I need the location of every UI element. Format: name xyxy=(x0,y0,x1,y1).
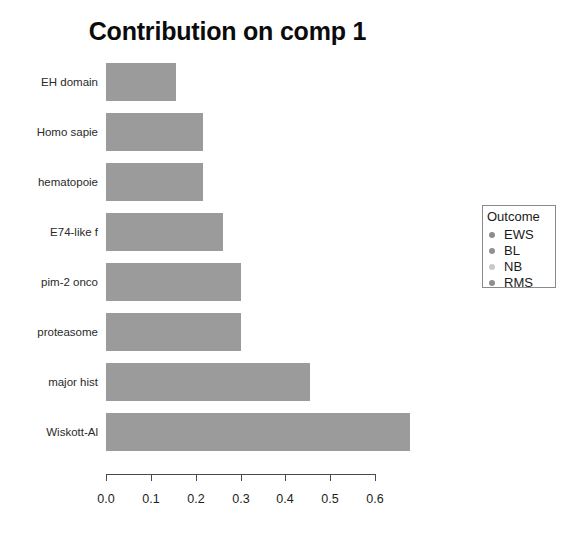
x-axis-tick xyxy=(241,474,242,481)
x-axis-tick xyxy=(151,474,152,481)
category-label: Wiskott-Al xyxy=(2,426,98,438)
legend-item-label: NB xyxy=(504,259,522,275)
category-label: proteasome xyxy=(2,326,98,338)
legend-dot-icon xyxy=(489,280,495,286)
category-label: EH domain xyxy=(2,76,98,88)
bar xyxy=(106,313,241,351)
x-axis-tick-label: 0.2 xyxy=(176,492,216,506)
x-axis-tick-label: 0.0 xyxy=(86,492,126,506)
legend-box: Outcome EWSBLNBRMS xyxy=(482,205,556,288)
x-axis-tick-label: 0.1 xyxy=(131,492,171,506)
legend-dot-icon xyxy=(489,232,495,238)
legend-item-ews[interactable]: EWS xyxy=(488,227,554,243)
bar xyxy=(106,263,241,301)
x-axis-tick-label: 0.3 xyxy=(221,492,261,506)
legend-item-nb[interactable]: NB xyxy=(488,259,554,275)
legend-title: Outcome xyxy=(487,209,540,224)
category-label: pim-2 onco xyxy=(2,276,98,288)
legend-item-rms[interactable]: RMS xyxy=(488,275,554,291)
bar xyxy=(106,213,223,251)
legend-item-label: BL xyxy=(504,243,520,259)
x-axis-tick xyxy=(285,474,286,481)
legend-item-label: RMS xyxy=(504,275,533,291)
bar xyxy=(106,363,310,401)
category-label: major hist xyxy=(2,376,98,388)
plot-area: EH domainHomo sapiehematopoieE74-like fp… xyxy=(0,0,470,539)
bar xyxy=(106,113,203,151)
legend-dot-icon xyxy=(489,264,495,270)
x-axis-tick xyxy=(106,474,107,481)
category-label: hematopoie xyxy=(2,176,98,188)
bar xyxy=(106,163,203,201)
x-axis-tick xyxy=(196,474,197,481)
x-axis-tick-label: 0.6 xyxy=(355,492,395,506)
category-label: Homo sapie xyxy=(2,126,98,138)
chart-page: Contribution on comp 1 EH domainHomo sap… xyxy=(0,0,572,539)
x-axis-tick-label: 0.4 xyxy=(265,492,305,506)
bar xyxy=(106,63,176,101)
x-axis-tick xyxy=(330,474,331,481)
x-axis-tick-label: 0.5 xyxy=(310,492,350,506)
legend-dot-icon xyxy=(489,248,495,254)
legend-item-label: EWS xyxy=(504,227,534,243)
legend-item-bl[interactable]: BL xyxy=(488,243,554,259)
x-axis-tick xyxy=(375,474,376,481)
bar xyxy=(106,413,410,451)
category-label: E74-like f xyxy=(2,226,98,238)
